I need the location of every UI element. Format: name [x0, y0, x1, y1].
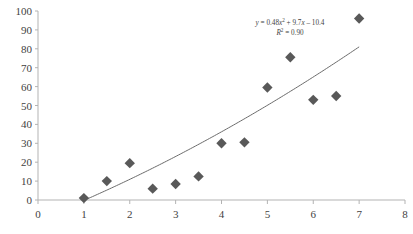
data-point-marker	[193, 171, 203, 181]
y-tick-label: 70	[21, 62, 33, 74]
x-tick-label: 3	[173, 208, 179, 220]
y-tick-label: 80	[21, 43, 33, 55]
x-tick-label: 4	[219, 208, 225, 220]
data-point-marker	[354, 13, 364, 23]
data-point-marker	[308, 95, 318, 105]
trendline	[84, 47, 359, 201]
y-axis: 0102030405060708090100	[16, 5, 39, 206]
trendline-path	[84, 47, 359, 201]
data-point-marker	[239, 137, 249, 147]
y-tick-label: 50	[21, 100, 33, 112]
y-tick-label: 60	[21, 81, 33, 93]
data-point-marker	[216, 138, 226, 148]
y-tick-label: 90	[21, 24, 33, 36]
x-tick-label: 2	[127, 208, 133, 220]
data-point-marker	[331, 91, 341, 101]
x-tick-label: 5	[265, 208, 271, 220]
x-tick-label: 6	[311, 208, 317, 220]
x-tick-label: 0	[35, 208, 41, 220]
data-point-marker	[262, 82, 272, 92]
scatter-chart: 0102030405060708090100 012345678 y = 0.4…	[0, 0, 413, 234]
equation-annotation: y = 0.48x2 + 9.7x – 10.4	[255, 17, 325, 27]
y-tick-label: 0	[27, 194, 33, 206]
y-tick-label: 40	[21, 118, 33, 130]
x-tick-label: 7	[356, 208, 362, 220]
y-tick-label: 20	[21, 156, 33, 168]
data-point-marker	[79, 193, 89, 203]
y-tick-label: 30	[21, 137, 33, 149]
x-tick-label: 1	[81, 208, 87, 220]
data-point-marker	[147, 183, 157, 193]
x-axis: 012345678	[35, 200, 408, 220]
chart-canvas: 0102030405060708090100 012345678 y = 0.4…	[0, 0, 413, 234]
x-tick-label: 8	[402, 208, 408, 220]
r-squared-annotation: R2 = 0.90	[275, 27, 304, 37]
data-point-marker	[170, 179, 180, 189]
y-tick-label: 10	[21, 175, 33, 187]
y-tick-label: 100	[16, 5, 33, 17]
data-point-marker	[102, 176, 112, 186]
data-point-marker	[285, 52, 295, 62]
data-points	[79, 13, 365, 203]
data-point-marker	[125, 158, 135, 168]
